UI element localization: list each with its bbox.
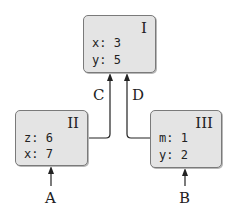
arrowhead-c-icon [107,73,113,81]
node-ii: II z: 6 x: 7 [15,110,88,166]
edge-label-b: B [179,189,190,207]
node-i-field-x: x: 3 [92,36,121,50]
node-i-field-y: y: 5 [92,53,121,67]
edge-label-a: A [45,189,56,207]
diagram-canvas: I x: 3 y: 5 II z: 6 x: 7 III m: 1 y: 2 C… [0,0,236,218]
node-iii-field-m: m: 1 [159,131,188,145]
edge-label-d: D [132,86,144,104]
arrowhead-a-icon [48,166,54,174]
node-ii-field-x: x: 7 [24,147,53,161]
node-iii-field-y: y: 2 [159,148,188,162]
node-ii-field-z: z: 6 [24,131,53,145]
node-i-title: I [141,19,147,37]
node-ii-title: II [67,114,79,132]
node-iii: III m: 1 y: 2 [150,110,222,168]
node-iii-title: III [195,114,213,132]
node-i: I x: 3 y: 5 [83,15,156,73]
arrowhead-b-icon [182,168,188,176]
edge-label-c: C [93,86,104,104]
arrowhead-d-icon [124,73,130,81]
